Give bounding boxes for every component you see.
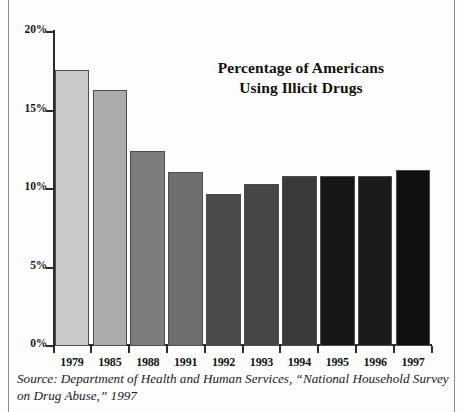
bar <box>244 184 279 346</box>
x-axis-tick-label: 1988 <box>129 355 167 370</box>
chart-figure: Percentage of Americans Using Illicit Dr… <box>0 0 463 412</box>
y-axis-tick-mark <box>46 188 54 190</box>
x-axis-tick-label: 1996 <box>356 355 394 370</box>
x-axis-tick-label: 1979 <box>53 355 91 370</box>
y-axis-tick-label: 20% <box>25 23 47 35</box>
x-axis-tick-mark <box>204 346 206 353</box>
bar <box>130 151 165 346</box>
x-axis-tick-mark <box>393 346 395 353</box>
y-axis-tick-mark <box>46 110 54 112</box>
x-axis-tick-mark <box>355 346 357 353</box>
y-axis-tick-mark <box>46 267 54 269</box>
x-axis-tick-mark <box>279 346 281 353</box>
column-rule-right <box>454 0 455 412</box>
x-axis-tick-mark <box>53 346 55 353</box>
x-axis-tick-label: 1985 <box>91 355 129 370</box>
plot-area: 0%5%10%15%20% 19791985198819911992199319… <box>53 30 432 346</box>
y-axis-tick-label: 10% <box>25 180 47 192</box>
bar <box>55 70 90 346</box>
x-axis-tick-mark <box>166 346 168 353</box>
x-axis-tick-label: 1993 <box>243 355 281 370</box>
x-axis-tick-label: 1995 <box>318 355 356 370</box>
y-axis-tick-label: 15% <box>25 102 47 114</box>
y-axis-tick-label: 5% <box>30 259 47 271</box>
x-axis-tick-label: 1991 <box>167 355 205 370</box>
bar <box>93 90 128 346</box>
x-axis-tick-mark <box>242 346 244 353</box>
column-rule-left <box>8 0 9 412</box>
y-axis-tick-label: 0% <box>30 337 47 349</box>
bar <box>396 170 431 346</box>
x-axis-tick-mark <box>317 346 319 353</box>
x-axis-tick-label: 1997 <box>394 355 432 370</box>
source-note: Source: Department of Health and Human S… <box>17 370 449 404</box>
bar <box>320 176 355 346</box>
bar <box>282 176 317 346</box>
y-axis-tick-mark <box>46 31 54 33</box>
x-axis-tick-label: 1992 <box>205 355 243 370</box>
bar <box>206 194 241 346</box>
bar <box>358 176 393 346</box>
x-axis-tick-mark <box>90 346 92 353</box>
x-axis-tick-label: 1994 <box>280 355 318 370</box>
x-axis-tick-mark <box>128 346 130 353</box>
bar <box>168 172 203 346</box>
x-axis-tick-mark <box>431 346 433 353</box>
